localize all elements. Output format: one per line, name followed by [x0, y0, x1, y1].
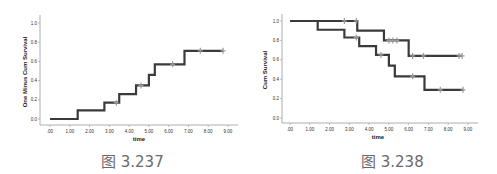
y-tick-label: 0.8 — [273, 38, 280, 43]
y-tick-label: 0.0 — [273, 116, 280, 121]
plot-series — [50, 48, 226, 119]
x-axis: .001.002.003.004.005.006.007.008.009.00 — [282, 123, 478, 132]
x-tick-label: 9.00 — [464, 127, 473, 132]
x-tick-label: 2.00 — [325, 127, 334, 132]
y-tick-label: 0.2 — [31, 97, 38, 102]
x-axis-label: time — [133, 136, 146, 142]
y-tick-label: 0.4 — [31, 78, 38, 83]
x-tick-label: .00 — [287, 127, 294, 132]
y-tick-label: 0.0 — [31, 117, 38, 122]
y-tick-label: 1.0 — [31, 21, 38, 26]
survival-step-line — [50, 51, 223, 119]
chart-cum-survival: 0.00.20.40.60.81.0 .001.002.003.004.005.… — [250, 0, 497, 174]
x-tick-label: 6.00 — [164, 129, 173, 134]
y-tick-label: 0.2 — [273, 96, 280, 101]
y-tick-label: 0.4 — [273, 77, 280, 82]
figure-3-238: 0.00.20.40.60.81.0 .001.002.003.004.005.… — [250, 0, 497, 174]
x-tick-label: 7.00 — [424, 127, 433, 132]
x-tick-label: 1.00 — [305, 127, 314, 132]
x-tick-label: 7.00 — [184, 129, 193, 134]
figure-caption: 图 3.237 — [101, 150, 164, 171]
x-tick-label: 9.00 — [224, 129, 233, 134]
y-axis: 0.00.20.40.60.81.0 — [31, 15, 40, 125]
x-tick-label: 8.00 — [444, 127, 453, 132]
figure-caption: 图 3.238 — [361, 150, 424, 171]
plot-series — [290, 18, 466, 93]
figure-3-237: 0.00.20.40.60.81.0 .001.002.003.004.005.… — [0, 0, 250, 174]
x-tick-label: 6.00 — [404, 127, 413, 132]
x-tick-label: 3.00 — [105, 129, 114, 134]
y-axis-label: Cum Survival — [262, 51, 268, 90]
y-tick-label: 1.0 — [273, 19, 280, 24]
x-axis: .001.002.003.004.005.006.007.008.009.00 — [40, 125, 238, 134]
x-axis-label: time — [372, 134, 385, 140]
x-tick-label: 4.00 — [365, 127, 374, 132]
x-tick-label: 5.00 — [145, 129, 154, 134]
y-tick-label: 0.6 — [273, 57, 280, 62]
y-axis: 0.00.20.40.60.81.0 — [273, 14, 282, 123]
x-tick-label: 3.00 — [345, 127, 354, 132]
x-tick-label: 2.00 — [85, 129, 94, 134]
x-tick-label: 8.00 — [204, 129, 213, 134]
x-tick-label: 4.00 — [125, 129, 134, 134]
x-tick-label: 5.00 — [385, 127, 394, 132]
y-axis-label: One Minus Cum Survival — [22, 36, 28, 107]
y-tick-label: 0.8 — [31, 40, 38, 45]
y-tick-label: 0.6 — [31, 59, 38, 64]
chart-one-minus-survival: 0.00.20.40.60.81.0 .001.002.003.004.005.… — [0, 0, 250, 174]
x-tick-label: .00 — [47, 129, 54, 134]
x-tick-label: 1.00 — [65, 129, 74, 134]
